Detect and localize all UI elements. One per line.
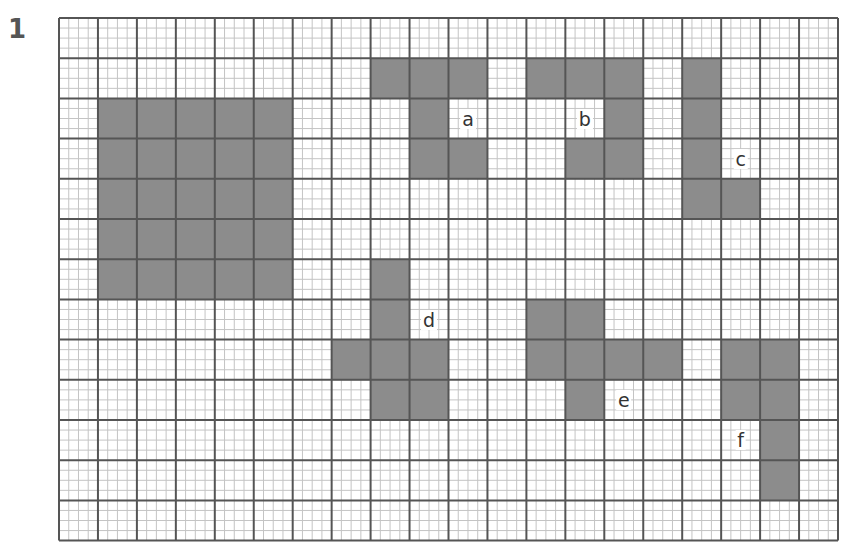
shape-label-f: f <box>735 430 746 450</box>
shaded-cell <box>98 259 137 300</box>
shaded-cell <box>254 139 293 180</box>
shaded-cell <box>410 98 449 139</box>
shaded-cell <box>721 179 760 220</box>
shaded-cell <box>215 179 254 220</box>
shaded-cell <box>410 58 449 99</box>
grid-canvas <box>58 17 839 542</box>
shaded-cell <box>526 299 565 340</box>
problem-number: 1 <box>8 14 26 44</box>
shaded-cell <box>332 340 371 381</box>
shaded-cell <box>371 259 410 300</box>
shape-label-e: e <box>616 390 632 410</box>
shaded-cell <box>176 139 215 180</box>
shaded-cell <box>176 219 215 260</box>
shaded-cell <box>137 139 176 180</box>
shaded-cell <box>604 340 643 381</box>
shaded-cell <box>176 259 215 300</box>
shaded-cell <box>604 139 643 180</box>
shape-label-d: d <box>421 310 437 330</box>
shaded-cell <box>449 58 488 99</box>
shaded-cell <box>98 98 137 139</box>
shaded-cell <box>760 380 799 421</box>
shaded-cell <box>410 380 449 421</box>
shaded-cell <box>137 259 176 300</box>
shaded-cell <box>565 340 604 381</box>
shaded-cell <box>760 340 799 381</box>
shaded-cell <box>98 219 137 260</box>
shaded-cell <box>215 98 254 139</box>
shaded-cell <box>176 179 215 220</box>
shaded-cell <box>721 340 760 381</box>
shaded-cell <box>682 179 721 220</box>
shaded-cell <box>565 139 604 180</box>
shaded-cell <box>526 340 565 381</box>
shaded-cell <box>760 420 799 461</box>
shaded-cell <box>643 340 682 381</box>
shaded-cell <box>682 58 721 99</box>
shape-label-a: a <box>460 109 476 129</box>
shaded-cell <box>137 179 176 220</box>
shaded-cell <box>721 380 760 421</box>
shape-label-b: b <box>577 109 593 129</box>
shaded-cell <box>215 139 254 180</box>
shaded-cell <box>371 380 410 421</box>
shaded-cell <box>682 98 721 139</box>
shaded-cell <box>371 340 410 381</box>
shaded-cell <box>760 460 799 501</box>
shape-square <box>98 98 293 300</box>
shaded-cell <box>410 340 449 381</box>
shaded-cell <box>565 380 604 421</box>
shaded-cell <box>254 98 293 139</box>
shaded-cell <box>215 259 254 300</box>
shaded-cell <box>215 219 254 260</box>
shape-label-c: c <box>733 149 747 169</box>
shaded-cell <box>604 58 643 99</box>
shaded-cell <box>137 98 176 139</box>
shaded-cell <box>371 58 410 99</box>
shaded-cell <box>98 139 137 180</box>
shaded-cell <box>254 259 293 300</box>
shaded-cell <box>371 299 410 340</box>
shaded-cell <box>254 179 293 220</box>
graph-paper-grid: abcdef <box>58 17 839 542</box>
shaded-cell <box>176 98 215 139</box>
shaded-cell <box>604 98 643 139</box>
shaded-cell <box>682 139 721 180</box>
shaded-cell <box>565 58 604 99</box>
shaded-cell <box>526 58 565 99</box>
shaded-cell <box>410 139 449 180</box>
shaded-cell <box>254 219 293 260</box>
shaded-cell <box>449 139 488 180</box>
major-gridlines <box>59 18 838 541</box>
shaded-cell <box>137 219 176 260</box>
shaded-cell <box>98 179 137 220</box>
shaded-cell <box>565 299 604 340</box>
